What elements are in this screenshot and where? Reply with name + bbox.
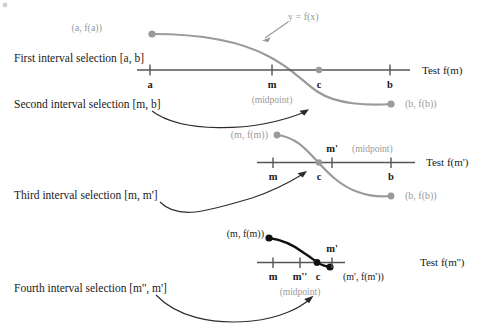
label-midpoint-panel-2: (midpoint) <box>352 144 393 155</box>
label-first-interval-selection: First interval selection [a, b] <box>14 52 144 65</box>
ticklabel-mdoubleprime-panel-3: m'' <box>293 271 308 282</box>
root-marker-panel-1 <box>316 67 322 73</box>
label-fourth-interval-selection: Fourth interval selection [m'', m'] <box>14 282 167 295</box>
fourth-selection-group: Fourth interval selection [m'', m'] <box>14 282 314 322</box>
label-test-fmprime: Test f(m') <box>426 156 469 169</box>
label-point-m-fm-panel-3: (m, f(m)) <box>227 228 264 240</box>
label-midpoint-panel-3: (midpoint) <box>280 287 321 298</box>
ticklabel-mprime-above-panel-3: m' <box>326 243 338 254</box>
curve-callout-arrow-panel-1 <box>262 22 288 42</box>
ticklabel-m-panel-1: m <box>268 79 277 90</box>
arrow-curve-third-selection <box>160 174 303 212</box>
arrow-curve-second-selection <box>152 111 305 128</box>
label-midpoint-panel-1: (midpoint) <box>252 95 293 106</box>
root-marker-panel-3 <box>314 259 321 266</box>
label-test-fmdoubleprime: Test f(m'') <box>420 256 465 269</box>
figure-canvas: (a, f(a)) y = f(x) First interval select… <box>0 0 481 333</box>
ticklabel-c-panel-3: c <box>316 271 321 282</box>
label-point-b-fb-panel-1: (b, f(b)) <box>405 98 437 110</box>
ticklabel-a: a <box>147 79 153 90</box>
panel-1-group: (a, f(a)) y = f(x) First interval select… <box>14 11 463 110</box>
arrow-head-second-selection <box>300 109 310 116</box>
ticklabel-c-panel-2: c <box>317 171 322 182</box>
label-test-fm: Test f(m) <box>422 64 463 77</box>
panel-2-group: (m, f(m)) m' (midpoint) Test f(m') m c b… <box>231 129 469 202</box>
ticklabel-c-panel-1: c <box>317 79 322 90</box>
panel-3-group: (m, f(m)) m' Test f(m'') m m'' c (m', f(… <box>227 228 465 298</box>
ticklabel-m-panel-3: m <box>269 271 278 282</box>
ticklabel-mprime-above-panel-2: m' <box>326 143 338 154</box>
point-a-fa <box>148 30 155 37</box>
third-selection-group: Third interval selection [m, m'] <box>14 171 307 212</box>
label-point-b-fb-panel-2: (b, f(b)) <box>405 190 437 202</box>
root-marker-panel-2 <box>316 159 322 165</box>
label-y-equals-fx: y = f(x) <box>288 11 319 23</box>
point-m-fm-panel-3 <box>265 234 272 241</box>
label-point-a-fa: (a, f(a)) <box>71 22 102 34</box>
point-m-fm-panel-2 <box>274 132 281 139</box>
ticklabel-b-panel-2: b <box>388 171 394 182</box>
label-third-interval-selection: Third interval selection [m, m'] <box>14 189 158 202</box>
ticklabel-m-panel-2: m <box>269 171 278 182</box>
label-second-interval-selection: Second interval selection [m, b] <box>14 98 161 111</box>
point-b-fb-panel-1 <box>387 100 394 107</box>
corner-speck <box>3 3 8 8</box>
label-point-m-fm-panel-2: (m, f(m)) <box>231 129 268 141</box>
ticklabel-b-panel-1: b <box>387 79 393 90</box>
point-b-fb-panel-2 <box>388 193 395 200</box>
label-point-mprime-fmprime: (m', f(m')) <box>343 271 384 283</box>
arrow-curve-fourth-selection <box>156 295 310 322</box>
